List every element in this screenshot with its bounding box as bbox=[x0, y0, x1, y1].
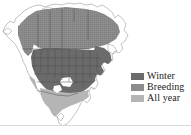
winter-swatch bbox=[131, 73, 144, 80]
page-rule bbox=[0, 125, 191, 126]
north-america-map bbox=[0, 0, 132, 128]
legend-label-winter: Winter bbox=[147, 71, 175, 81]
legend-label-breeding: Breeding bbox=[147, 82, 184, 92]
legend-item-all-year[interactable]: All year bbox=[131, 93, 191, 103]
all-year-swatch bbox=[131, 95, 144, 102]
legend-label-all-year: All year bbox=[147, 93, 180, 103]
range-map-figure: Winter Breeding All year bbox=[0, 0, 191, 135]
breeding-swatch bbox=[131, 84, 144, 91]
range-legend: Winter Breeding All year bbox=[131, 71, 191, 107]
map-container bbox=[0, 0, 132, 128]
legend-item-winter[interactable]: Winter bbox=[131, 71, 191, 81]
legend-item-breeding[interactable]: Breeding bbox=[131, 82, 191, 92]
